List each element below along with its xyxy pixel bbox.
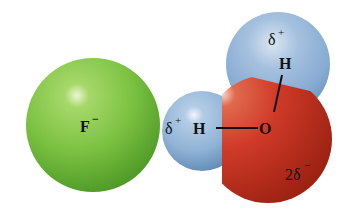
hydrogen-top-symbol: H <box>279 55 292 72</box>
fluoride-symbol: F <box>80 118 90 135</box>
molecule-diagram: F − δ + H δ + H O 2δ − <box>0 0 356 211</box>
hydrogen-left-partial-charge-sign: + <box>175 114 181 126</box>
oxygen-partial-charge: 2δ <box>285 166 301 183</box>
oxygen-sphere <box>204 75 332 203</box>
hydrogen-top-partial-charge: δ <box>268 31 276 48</box>
oxygen-symbol: O <box>259 120 271 137</box>
hydrogen-left-partial-charge: δ <box>165 120 173 137</box>
hydrogen-top-partial-charge-sign: + <box>278 26 284 38</box>
hydrogen-left-symbol: H <box>193 120 206 137</box>
fluoride-charge: − <box>92 112 99 126</box>
fluoride-ion-sphere: F − <box>26 58 160 192</box>
oxygen-partial-charge-sign: − <box>304 159 310 171</box>
